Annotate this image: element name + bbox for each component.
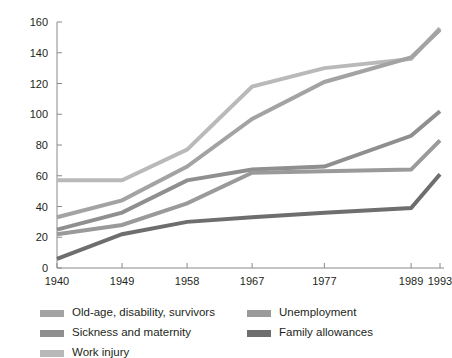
y-tick-label: 100 <box>30 108 48 120</box>
series-line <box>57 30 440 218</box>
series-line <box>57 28 440 180</box>
legend-item[interactable]: Sickness and maternity <box>40 324 215 342</box>
x-tick-label: 1977 <box>312 275 336 287</box>
y-tick-label: 60 <box>36 170 48 182</box>
x-tick-label: 1967 <box>240 275 264 287</box>
y-tick-label: 160 <box>30 16 48 28</box>
x-tick-label: 1949 <box>110 275 134 287</box>
legend-color-swatch <box>247 330 271 337</box>
legend-item[interactable]: Family allowances <box>247 324 373 342</box>
series-line <box>57 140 440 234</box>
legend-item-label: Sickness and maternity <box>72 327 191 339</box>
y-tick-label: 0 <box>42 262 48 274</box>
x-tick-label: 1940 <box>45 275 69 287</box>
y-tick-label: 40 <box>36 201 48 213</box>
legend-item[interactable]: Work injury <box>40 344 215 358</box>
legend-item-label: Work injury <box>72 347 129 358</box>
y-tick-label: 140 <box>30 47 48 59</box>
legend-item-label: Family allowances <box>279 327 373 339</box>
legend-column-left: Old-age, disability, survivorsSickness a… <box>40 304 215 358</box>
legend-item-label: Old-age, disability, survivors <box>72 307 215 319</box>
plot-area: 0204060801001201401601940194919581967197… <box>0 0 452 300</box>
line-chart: 0204060801001201401601940194919581967197… <box>0 0 452 358</box>
y-tick-label: 20 <box>36 231 48 243</box>
y-tick-label: 120 <box>30 78 48 90</box>
x-tick-label: 1993 <box>428 275 452 287</box>
legend-color-swatch <box>247 310 271 317</box>
chart-legend: Old-age, disability, survivorsSickness a… <box>0 300 452 358</box>
legend-item[interactable]: Old-age, disability, survivors <box>40 304 215 322</box>
legend-color-swatch <box>40 310 64 317</box>
y-tick-label: 80 <box>36 139 48 151</box>
x-tick-label: 1958 <box>175 275 199 287</box>
legend-color-swatch <box>40 350 64 357</box>
legend-item[interactable]: Unemployment <box>247 304 373 322</box>
legend-column-right: UnemploymentFamily allowances <box>247 304 373 344</box>
x-tick-label: 1989 <box>399 275 423 287</box>
legend-item-label: Unemployment <box>279 307 356 319</box>
legend-color-swatch <box>40 330 64 337</box>
